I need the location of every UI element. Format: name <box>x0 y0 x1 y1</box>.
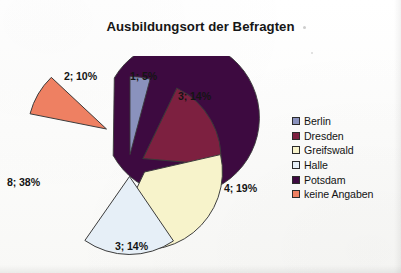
data-label-keine-angaben: 2; 10% <box>64 70 97 82</box>
legend-label-keine-angaben: keine Angaben <box>304 188 373 200</box>
data-label-dresden: 3; 14% <box>178 90 211 102</box>
legend-item-berlin[interactable]: Berlin <box>292 114 396 129</box>
legend-item-greifswald[interactable]: Greifswald <box>292 143 396 158</box>
legend-label-dresden: Dresden <box>304 130 344 142</box>
pie-chart-svg <box>6 56 274 268</box>
legend-item-keine-angaben[interactable]: keine Angaben <box>292 187 396 202</box>
legend-swatch-icon-berlin <box>292 117 300 125</box>
legend-label-potsdam: Potsdam <box>304 174 345 186</box>
legend-swatch-icon-potsdam <box>292 176 300 184</box>
legend-label-greifswald: Greifswald <box>304 144 354 156</box>
chart-legend: Berlin Dresden Greifswald Halle Potsdam … <box>292 114 396 202</box>
chart-title: Ausbildungsort der Befragten <box>0 19 401 34</box>
data-label-halle: 3; 14% <box>115 240 148 252</box>
legend-label-berlin: Berlin <box>304 115 331 127</box>
legend-swatch-icon-greifswald <box>292 146 300 154</box>
legend-swatch-icon-halle <box>292 161 300 169</box>
legend-item-dresden[interactable]: Dresden <box>292 129 396 144</box>
data-label-potsdam: 8; 38% <box>7 176 40 188</box>
pie-chart-plot-area: 1; 5% 3; 14% 4; 19% 3; 14% 8; 38% 2; 10% <box>6 56 274 268</box>
data-label-greifswald: 4; 19% <box>224 182 257 194</box>
chart-page: Ausbildungsort der Befragten 1; 5% 3; 14… <box>0 0 401 273</box>
scan-speck-icon <box>311 52 313 54</box>
legend-swatch-icon-dresden <box>292 132 300 140</box>
data-label-berlin: 1; 5% <box>130 70 157 82</box>
legend-label-halle: Halle <box>304 159 328 171</box>
pie-slice-keine-angaben[interactable] <box>30 75 116 137</box>
legend-swatch-icon-keine-angaben <box>292 190 300 198</box>
legend-item-halle[interactable]: Halle <box>292 158 396 173</box>
legend-item-potsdam[interactable]: Potsdam <box>292 172 396 187</box>
